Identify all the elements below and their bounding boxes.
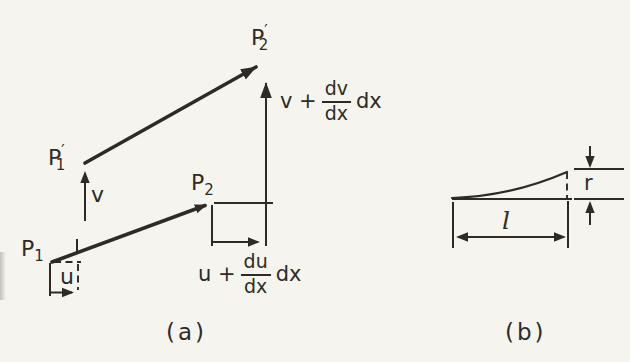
point-label-p1-prime: P′1 [48, 144, 65, 173]
p1-base: P [21, 236, 34, 261]
p1-subscript: 1 [34, 247, 44, 265]
point-label-p2-prime: P′2 [251, 24, 268, 53]
p1-prime-subscript: 1 [56, 156, 66, 174]
point-label-p1: P1 [21, 238, 44, 264]
u-expr-fraction: du dx [241, 252, 271, 297]
caption-panel-b: (b) [505, 321, 547, 344]
p2-base: P [191, 170, 204, 195]
panel-b-linework [452, 146, 624, 248]
caption-panel-a: (a) [166, 321, 207, 344]
point-label-p2: P2 [191, 172, 214, 198]
deflection-curve [452, 172, 567, 198]
v-expr-prefix: v + [280, 91, 317, 112]
p2-subscript: 2 [204, 181, 214, 199]
v-expr-suffix: dx [356, 91, 382, 112]
p2-prime-subscript: 2 [259, 36, 269, 54]
v-expr-numerator: dv [322, 79, 351, 103]
length-dimension-label: l [502, 208, 510, 233]
u-plus-dudx-expression: u + du dx dx [198, 252, 301, 297]
scan-smudge [0, 252, 6, 300]
scanned-figure: P1 P′1 P2 P′2 v u v + dv dx dx u + du dx… [0, 0, 630, 362]
displaced-element-line-p1p-p2p [85, 67, 256, 163]
v-expr-fraction: dv dx [322, 79, 351, 124]
u-expr-denominator: dx [244, 276, 267, 297]
r-dimension-label: r [584, 173, 593, 194]
v-expr-denominator: dx [325, 103, 348, 124]
element-line-p1-p2 [52, 206, 205, 263]
v-label: v [91, 184, 104, 206]
v-plus-dvdx-expression: v + dv dx dx [280, 79, 382, 124]
diagram-linework [0, 0, 630, 362]
u-expr-suffix: dx [276, 264, 302, 285]
u-label: u [60, 266, 74, 288]
u-expr-prefix: u + [198, 264, 236, 285]
u-expr-numerator: du [241, 252, 271, 276]
